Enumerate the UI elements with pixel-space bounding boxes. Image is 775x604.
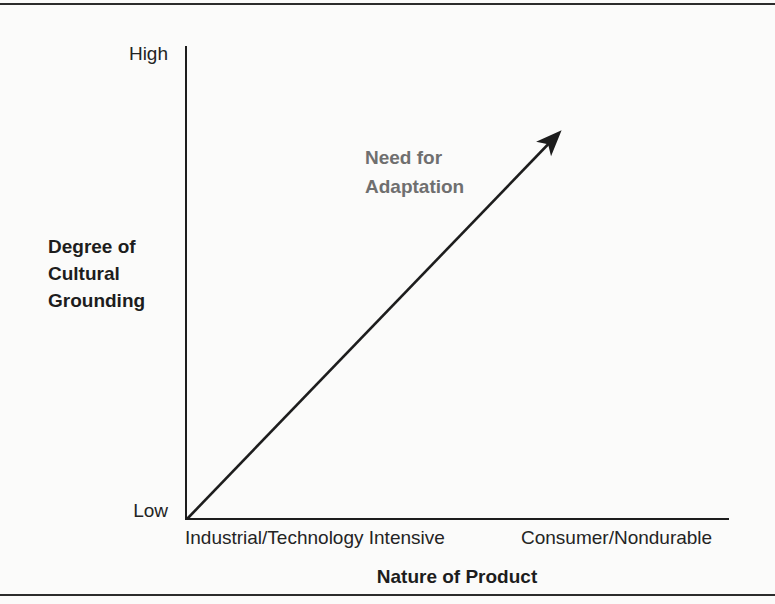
- y-axis-low-label: Low: [96, 500, 168, 521]
- y-axis-title: Degree of Cultural Grounding: [48, 233, 145, 314]
- arrow-label: Need for Adaptation: [365, 143, 464, 201]
- bottom-border-rule: [0, 594, 775, 596]
- y-axis-title-line-3: Grounding: [48, 287, 145, 314]
- x-axis-label-industrial: Industrial/Technology Intensive: [185, 527, 445, 549]
- x-axis-title: Nature of Product: [185, 566, 729, 588]
- arrow-label-line-2: Adaptation: [365, 172, 464, 201]
- figure-canvas: High Low Degree of Cultural Grounding Ne…: [0, 0, 775, 604]
- y-axis-title-line-1: Degree of: [48, 233, 145, 260]
- arrow-label-line-1: Need for: [365, 143, 464, 172]
- x-axis-label-consumer: Consumer/Nondurable: [521, 527, 712, 549]
- top-border-rule: [0, 3, 775, 5]
- y-axis-title-line-2: Cultural: [48, 260, 145, 287]
- y-axis-high-label: High: [96, 43, 168, 64]
